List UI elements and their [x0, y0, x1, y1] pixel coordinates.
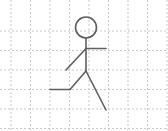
drawing-canvas[interactable]: [0, 0, 168, 131]
grid-vertical-lines: [11, 0, 167, 131]
grid-horizontal-lines: [0, 31, 168, 129]
grid-layer: [0, 0, 168, 131]
